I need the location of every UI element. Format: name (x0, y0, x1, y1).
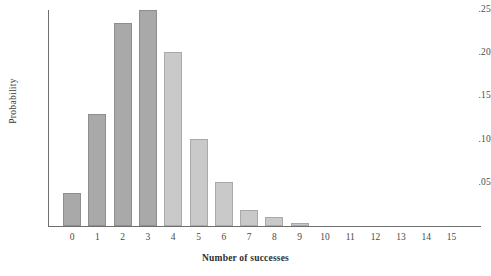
bar (114, 23, 132, 226)
x-axis-line (49, 226, 481, 227)
x-tick-label: 15 (437, 232, 467, 242)
bar (88, 114, 106, 226)
bar (139, 10, 157, 226)
bar (240, 210, 258, 226)
bar (63, 193, 81, 226)
plot-area (49, 10, 481, 226)
bar (265, 217, 283, 226)
x-axis-title: Number of successes (0, 253, 491, 263)
probability-distribution-chart: .05.10.15.20.25 Probability 012345678910… (0, 0, 491, 276)
bar (215, 182, 233, 226)
bar (190, 139, 208, 226)
bar (164, 52, 182, 226)
y-axis-title: Probability (8, 26, 18, 176)
bar (291, 223, 309, 226)
